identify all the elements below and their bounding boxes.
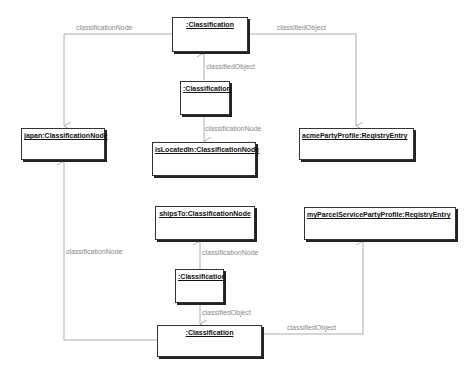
edge-top-to-japan bbox=[64, 34, 172, 126]
edge-label-mid-top: classifiedObject bbox=[206, 63, 255, 70]
edge-label-low-bottom: classifiedObject bbox=[202, 309, 251, 316]
node-label: shipsTo:ClassificationNode bbox=[156, 207, 254, 217]
edge-label-mid-islocatedin: classificationNode bbox=[205, 125, 261, 132]
islocatedin-classification-node[interactable]: isLocatedIn:ClassificationNode bbox=[152, 142, 256, 176]
classification-top-node[interactable]: :Classification bbox=[172, 17, 248, 52]
edge-label-bottom-myparcel: classifiedObject bbox=[287, 324, 336, 331]
classification-low-node[interactable]: :Classification bbox=[175, 269, 224, 303]
node-label: :Classification bbox=[158, 326, 261, 336]
node-label: acmePartyProfile:RegistryEntry bbox=[300, 129, 413, 139]
node-label: :Classification bbox=[173, 18, 247, 28]
edge-label-low-shipsto: classificationNode bbox=[202, 249, 258, 256]
edge-label-top-japan: classificationNode bbox=[76, 24, 132, 31]
node-label: myParcelServicePartyProfile:RegistryEntr… bbox=[305, 208, 455, 218]
classification-bottom-node[interactable]: :Classification bbox=[157, 325, 262, 357]
myparcel-registry-entry-node[interactable]: myParcelServicePartyProfile:RegistryEntr… bbox=[304, 207, 456, 240]
acme-registry-entry-node[interactable]: acmePartyProfile:RegistryEntry bbox=[299, 128, 414, 160]
edge-label-bottom-japan: classificationNode bbox=[66, 248, 122, 255]
edge-top-to-acme bbox=[248, 34, 356, 126]
connector-layer bbox=[0, 0, 474, 376]
edge-bottom-to-myparcel bbox=[262, 241, 363, 334]
node-label: japan:ClassificationNode bbox=[22, 129, 104, 139]
japan-classification-node[interactable]: japan:ClassificationNode bbox=[21, 128, 105, 160]
node-label: :Classification bbox=[176, 270, 223, 280]
edge-label-top-acme: classifiedObject bbox=[277, 24, 326, 31]
classification-mid-node[interactable]: :Classification bbox=[180, 81, 230, 115]
node-label: :Classification bbox=[181, 82, 229, 92]
shipsto-classification-node[interactable]: shipsTo:ClassificationNode bbox=[155, 206, 255, 240]
node-label: isLocatedIn:ClassificationNode bbox=[153, 143, 255, 153]
